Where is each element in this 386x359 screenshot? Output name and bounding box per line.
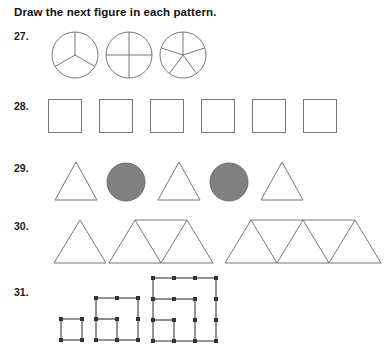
- triangle-2[interactable]: [156, 158, 204, 204]
- problem-number-29: 29.: [14, 162, 29, 174]
- circle-4-sectors[interactable]: [102, 28, 156, 82]
- triangle-group-3[interactable]: [109, 216, 219, 268]
- circle-5-sectors[interactable]: [156, 28, 210, 82]
- problem-27: 27.: [0, 28, 363, 84]
- triangle-3[interactable]: [259, 158, 307, 204]
- problem-30: 30.: [0, 216, 363, 272]
- square-3[interactable]: [150, 96, 186, 136]
- page-title: Draw the next figure in each pattern.: [14, 6, 216, 18]
- triangle-group-5[interactable]: [225, 216, 386, 268]
- problem-29: 29.: [0, 158, 363, 208]
- problem-number-31: 31.: [14, 286, 29, 298]
- square-1[interactable]: [48, 96, 84, 136]
- gray-circle-1[interactable]: [105, 158, 149, 204]
- nested-squares-3[interactable]: [150, 275, 223, 348]
- problem-31: 31.: [0, 284, 363, 356]
- nested-squares-2[interactable]: [93, 295, 145, 347]
- problem-number-28: 28.: [14, 100, 29, 112]
- circle-3-sectors[interactable]: [48, 28, 102, 82]
- triangle-1[interactable]: [53, 158, 101, 204]
- problem-number-27: 27.: [14, 30, 29, 42]
- nested-squares-1[interactable]: [58, 316, 88, 346]
- square-4[interactable]: [201, 96, 237, 136]
- square-6[interactable]: [303, 96, 339, 136]
- problem-28: 28.: [0, 96, 363, 142]
- triangle-group-1[interactable]: [51, 216, 111, 268]
- square-2[interactable]: [99, 96, 135, 136]
- square-5[interactable]: [252, 96, 288, 136]
- problem-number-30: 30.: [14, 220, 29, 232]
- gray-circle-2[interactable]: [208, 158, 252, 204]
